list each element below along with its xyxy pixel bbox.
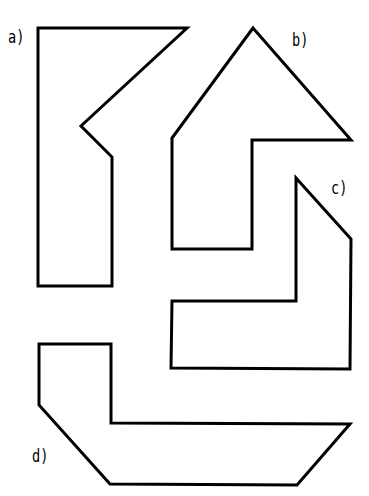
label-d: d) [32,448,48,465]
figure-canvas [0,0,369,496]
shape-b-outline [172,28,351,249]
label-a: a) [8,29,24,46]
label-b: b) [292,32,308,49]
shape-a-outline [38,28,187,286]
label-c: c) [331,180,347,197]
shape-d-outline [39,344,350,485]
shape-c-outline [171,178,351,369]
